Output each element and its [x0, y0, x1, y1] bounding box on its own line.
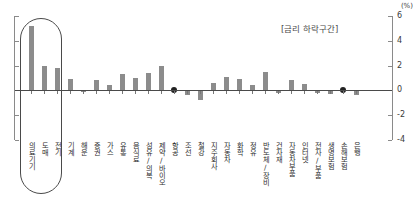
- zero-baseline: [15, 90, 392, 91]
- chart-root: (%) [금리 하락구간] 6420-2-4 의료기기도매전기기계해운증권가스유…: [0, 0, 416, 211]
- x-axis-category-label: 도매: [40, 142, 47, 156]
- x-axis-category-label: 건자재: [274, 142, 281, 163]
- x-axis-category-label: 기계: [66, 142, 73, 156]
- x-axis-category-label: 전자/부품: [313, 142, 320, 179]
- x-axis-category-label: 제약/바이오: [157, 142, 164, 186]
- x-axis-category-label: 유통: [118, 142, 125, 156]
- x-axis-category-label: 반도체/장비: [261, 142, 268, 186]
- x-axis-category-label: 자동차부품: [287, 142, 294, 177]
- x-axis-category-label: 음식료: [131, 142, 138, 163]
- x-axis-category-label: 은행: [352, 142, 359, 156]
- x-axis-category-label: 섬유/의복: [144, 142, 151, 179]
- x-axis-category-label: 항공: [170, 142, 177, 156]
- x-axis-category-label: 지주회사: [209, 142, 216, 170]
- x-axis-category-label: 해운: [79, 142, 86, 156]
- x-axis-category-label: 전기: [53, 142, 60, 156]
- x-axis-category-label: 증권: [92, 142, 99, 156]
- x-axis-category-label: 가스: [105, 142, 112, 156]
- x-axis-category-label: 조선: [183, 142, 190, 156]
- x-axis-category-label: 손해보험: [339, 142, 346, 170]
- x-axis-category-label: 의료기기: [27, 142, 34, 170]
- x-axis-category-label: 인터넷: [300, 142, 307, 163]
- x-axis-category-label: 철강: [196, 142, 203, 156]
- x-axis-category-label: 자동차: [222, 142, 229, 163]
- x-axis-labels: 의료기기도매전기기계해운증권가스유통음식료섬유/의복제약/바이오항공조선철강지주…: [0, 0, 416, 211]
- x-axis-category-label: 정유: [248, 142, 255, 156]
- x-axis-category-label: 화학: [235, 142, 242, 156]
- x-axis-category-label: 생명보험: [326, 142, 333, 170]
